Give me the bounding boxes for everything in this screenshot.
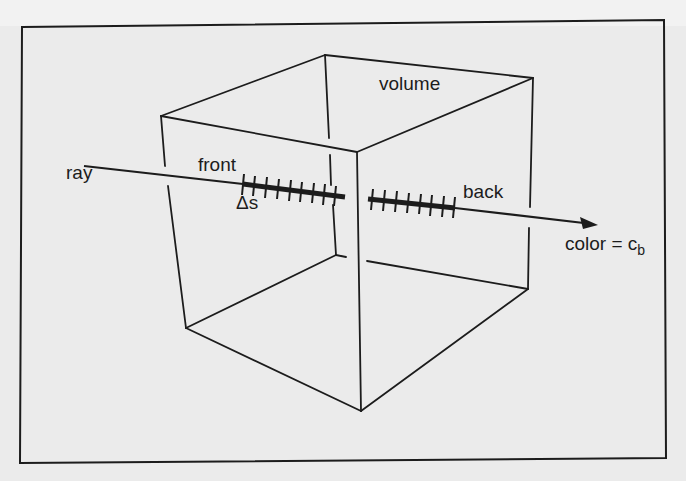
cube-edge-back-vertical-upper: [325, 55, 329, 138]
ray-line-exit: [455, 208, 588, 224]
page-margin: [0, 0, 686, 26]
color-equation-label: color = cb: [565, 234, 645, 253]
back-label: back: [463, 182, 503, 201]
cube-edge-front-vertical: [357, 152, 361, 411]
ray-casting-diagram: ray front Δs volume back color = cb: [0, 0, 686, 481]
volume-label: volume: [379, 74, 440, 93]
cube-edge-bottom-front-right: [361, 289, 528, 411]
back-sample-segment: [368, 199, 455, 208]
cube-edge-bottom-back-left: [186, 255, 336, 328]
color-equation-text: color = c: [565, 233, 637, 254]
arrowhead-icon: [580, 217, 598, 229]
ray-label: ray: [66, 163, 92, 182]
cube-edge-bottom-back-right: [367, 261, 528, 289]
color-equation-subscript: b: [637, 242, 645, 258]
cube-edge-left-vertical-lower: [168, 186, 186, 328]
front-sample-segment: [243, 184, 345, 197]
ray: [84, 166, 598, 229]
cube-edge-bottom-front-left: [186, 328, 361, 411]
cube-edge-back-bottom-stub: [336, 255, 346, 257]
cube-edge-back-vertical-lower: [333, 205, 336, 255]
delta-s-label: Δs: [236, 193, 258, 212]
cube-edge-left-vertical-upper: [161, 116, 165, 166]
cube-edge-right-vertical-lower: [528, 228, 529, 289]
cube-edge-right-vertical-upper: [530, 78, 533, 207]
cube-volume: [161, 55, 533, 411]
front-label: front: [198, 155, 236, 174]
cube-edge-back-vertical-mid: [330, 155, 331, 185]
cube-edge-top-back-left: [161, 55, 325, 116]
